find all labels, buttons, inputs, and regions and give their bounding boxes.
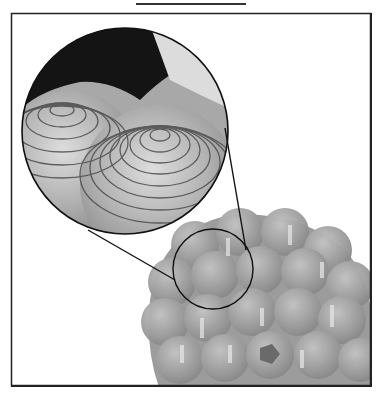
sphere-cluster [141, 208, 382, 390]
callout-line-left [88, 230, 175, 280]
figure-illustration [0, 0, 383, 398]
